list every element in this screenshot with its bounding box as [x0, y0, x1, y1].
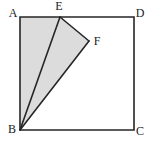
vertex-label-e: E — [55, 0, 62, 13]
geometry-figure: A B C D E F — [0, 0, 148, 145]
vertex-label-c: C — [136, 124, 144, 138]
vertex-label-b: B — [8, 122, 16, 136]
vertex-label-d: D — [136, 6, 145, 20]
figure-canvas: A B C D E F — [0, 0, 148, 145]
vertex-label-f: F — [94, 34, 101, 48]
vertex-label-a: A — [9, 6, 18, 20]
